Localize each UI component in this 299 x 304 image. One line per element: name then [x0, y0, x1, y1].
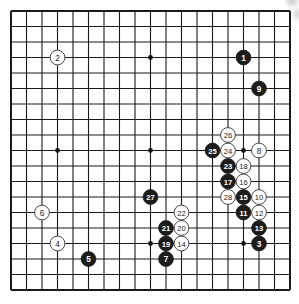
move-number-label: 23 [224, 162, 232, 171]
white-stone: 4 [50, 236, 65, 251]
star-point [55, 148, 60, 153]
black-stone: 7 [159, 252, 174, 267]
black-stone: 23 [221, 159, 236, 174]
star-point [241, 148, 246, 153]
black-stone: 19 [159, 236, 174, 251]
move-number-label: 17 [224, 178, 232, 187]
move-number-label: 21 [162, 224, 171, 233]
star-point [148, 148, 153, 153]
white-stone: 10 [252, 190, 267, 205]
white-stone: 22 [174, 205, 189, 220]
black-stone: 27 [143, 190, 158, 205]
black-stone: 25 [205, 143, 220, 158]
black-stone: 11 [236, 205, 251, 220]
white-stone: 14 [174, 236, 189, 251]
move-number-label: 2 [55, 54, 60, 63]
black-stone: 15 [236, 190, 251, 205]
white-stone: 2 [50, 50, 65, 65]
move-number-label: 22 [177, 209, 185, 218]
go-board-diagram: 1234567891011121314151617181920212223242… [0, 0, 299, 304]
move-number-label: 9 [257, 85, 262, 94]
white-stone: 18 [236, 159, 251, 174]
white-stone: 12 [252, 205, 267, 220]
move-number-label: 27 [146, 193, 154, 202]
white-stone: 20 [174, 221, 189, 236]
black-stone: 1 [236, 50, 251, 65]
move-number-label: 18 [239, 162, 247, 171]
black-stone: 21 [159, 221, 174, 236]
move-number-label: 11 [239, 209, 248, 218]
move-number-label: 5 [86, 255, 91, 264]
white-stone: 8 [252, 143, 267, 158]
move-number-label: 8 [257, 147, 262, 156]
black-stone: 13 [252, 221, 267, 236]
move-number-label: 16 [239, 178, 247, 187]
black-stone: 3 [252, 236, 267, 251]
star-point [241, 241, 246, 246]
move-number-label: 26 [224, 131, 232, 140]
move-number-label: 24 [224, 147, 232, 156]
black-stone: 9 [252, 81, 267, 96]
move-number-label: 7 [164, 255, 169, 264]
star-point [148, 241, 153, 246]
move-number-label: 3 [257, 240, 262, 249]
move-number-label: 12 [255, 209, 263, 218]
move-number-label: 20 [177, 224, 185, 233]
move-number-label: 28 [224, 193, 232, 202]
white-stone: 24 [221, 143, 236, 158]
move-number-label: 25 [208, 147, 217, 156]
black-stone: 17 [221, 174, 236, 189]
move-number-label: 19 [162, 240, 170, 249]
move-number-label: 4 [55, 240, 60, 249]
move-number-label: 6 [40, 209, 45, 218]
white-stone: 26 [221, 128, 236, 143]
white-stone: 16 [236, 174, 251, 189]
go-board: 1234567891011121314151617181920212223242… [0, 0, 299, 304]
black-stone: 5 [81, 252, 96, 267]
star-point [148, 55, 153, 60]
white-stone: 6 [35, 205, 50, 220]
move-number-label: 15 [239, 193, 248, 202]
move-number-label: 13 [255, 224, 263, 233]
move-number-label: 14 [177, 240, 185, 249]
move-number-label: 1 [241, 54, 246, 63]
white-stone: 28 [221, 190, 236, 205]
scan-artifact-mark [294, 8, 299, 20]
move-number-label: 10 [255, 193, 263, 202]
